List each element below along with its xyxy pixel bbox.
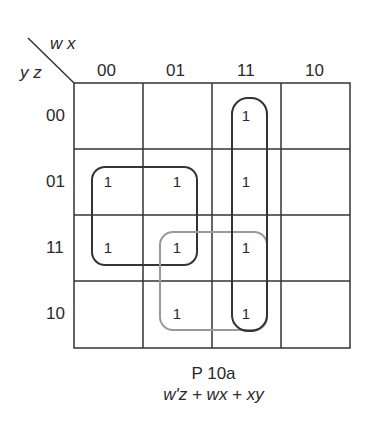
caption-expression: w'z + wx + xy (30, 385, 367, 405)
row-header-11: 11 (46, 238, 64, 258)
row-variable-label: y z (20, 63, 42, 83)
row-header-01: 01 (46, 172, 65, 192)
cell-r2-c1: 1 (167, 239, 187, 256)
col-variable-label: w x (50, 34, 76, 54)
cell-r2-c0: 1 (98, 239, 118, 256)
row-header-10: 10 (46, 304, 65, 324)
cell-r2-c2: 1 (236, 239, 256, 256)
cell-r1-c1: 1 (167, 173, 187, 190)
cell-r3-c1: 1 (167, 305, 187, 322)
row-header-00: 00 (46, 106, 65, 126)
col-header-11: 11 (237, 61, 255, 81)
cell-r3-c2: 1 (236, 305, 256, 322)
col-header-01: 01 (166, 61, 185, 81)
cell-r1-c0: 1 (98, 173, 118, 190)
cell-r1-c2: 1 (236, 173, 256, 190)
col-header-00: 00 (97, 61, 116, 81)
col-header-10: 10 (305, 61, 324, 81)
cell-r0-c2: 1 (236, 107, 256, 124)
caption-title: P 10a (30, 364, 367, 384)
